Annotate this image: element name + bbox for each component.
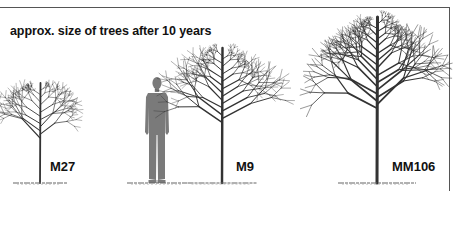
label-mm106: MM106 — [392, 159, 435, 174]
label-m9: M9 — [236, 159, 254, 174]
person-silhouette-icon — [127, 77, 187, 184]
tree-m9-icon — [154, 44, 295, 184]
label-m27: M27 — [50, 159, 75, 174]
